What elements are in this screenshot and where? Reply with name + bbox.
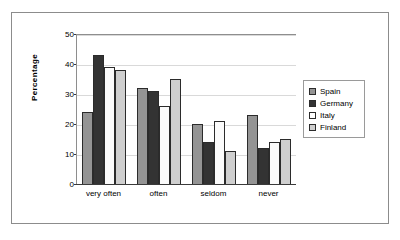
bar-spain-often[interactable] — [137, 88, 148, 184]
legend-item-label: Italy — [320, 111, 335, 120]
legend-item-germany[interactable]: Germany — [309, 97, 360, 109]
bar-groups — [77, 35, 296, 184]
bar-finland-very-often[interactable] — [115, 70, 126, 184]
legend-item-label: Spain — [320, 87, 340, 96]
x-axis-tick-label: often — [131, 189, 186, 203]
bar-germany-seldom[interactable] — [203, 142, 214, 184]
bar-group-never — [241, 35, 296, 184]
bar-germany-never[interactable] — [258, 148, 269, 184]
bar-finland-never[interactable] — [280, 139, 291, 184]
bar-italy-often[interactable] — [159, 106, 170, 184]
bar-group-often — [132, 35, 187, 184]
x-axis-tick-label: never — [241, 189, 296, 203]
legend-item-italy[interactable]: Italy — [309, 109, 360, 121]
x-axis-tick-label: very often — [76, 189, 131, 203]
bar-italy-very-often[interactable] — [104, 67, 115, 184]
chart-frame: 50403020100 Percentage very oftenoftense… — [11, 12, 389, 224]
bar-group-very-often — [77, 35, 132, 184]
x-axis-line — [76, 184, 296, 185]
legend-item-spain[interactable]: Spain — [309, 85, 360, 97]
bar-finland-often[interactable] — [170, 79, 181, 184]
y-axis-tick-marks — [12, 34, 82, 184]
bar-group-seldom — [187, 35, 242, 184]
x-axis-tick-label: seldom — [186, 189, 241, 203]
legend-swatch-icon — [309, 88, 316, 95]
plot-area — [76, 34, 296, 184]
legend-item-label: Finland — [320, 123, 346, 132]
y-axis-title: Percentage — [30, 38, 39, 118]
bar-spain-very-often[interactable] — [82, 112, 93, 184]
bar-italy-never[interactable] — [269, 142, 280, 184]
bar-spain-seldom[interactable] — [192, 124, 203, 184]
legend-swatch-icon — [309, 100, 316, 107]
bar-italy-seldom[interactable] — [214, 121, 225, 184]
bar-germany-very-often[interactable] — [93, 55, 104, 184]
bar-spain-never[interactable] — [247, 115, 258, 184]
x-axis-tick-labels: very oftenoftenseldomnever — [76, 189, 296, 203]
bar-finland-seldom[interactable] — [225, 151, 236, 184]
bar-germany-often[interactable] — [148, 91, 159, 184]
legend-item-label: Germany — [320, 99, 353, 108]
legend-item-finland[interactable]: Finland — [309, 121, 360, 133]
legend: SpainGermanyItalyFinland — [303, 80, 365, 138]
legend-swatch-icon — [309, 124, 316, 131]
legend-swatch-icon — [309, 112, 316, 119]
